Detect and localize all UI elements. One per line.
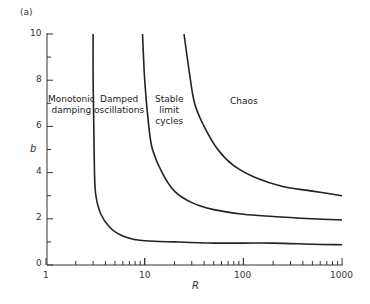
x-ticks [46, 258, 342, 265]
region-label-line: Damped [94, 94, 144, 105]
y-tick-label-4: 4 [36, 166, 42, 176]
panel-label: (a) [20, 7, 33, 17]
axes [46, 33, 343, 265]
y-axis-label: b [30, 143, 36, 154]
boundary-curve-3 [184, 34, 342, 196]
region-label-chaos: Chaos [230, 96, 258, 107]
y-tick-label-6: 6 [36, 120, 42, 130]
x-tick-label-1000: 1000 [330, 270, 353, 280]
x-tick-label-1: 1 [43, 270, 49, 280]
region-label-line: oscillations [94, 105, 144, 116]
y-tick-label-10: 10 [30, 28, 41, 38]
region-label-line: cycles [155, 116, 184, 127]
region-label-line: Monotonic [48, 94, 95, 105]
x-tick-label-100: 100 [234, 270, 251, 280]
boundary-curves [93, 34, 342, 245]
x-tick-label-10: 10 [139, 270, 150, 280]
region-label-monotonic-damping: Monotonic damping [48, 94, 95, 116]
boundary-curve-1 [93, 34, 342, 245]
x-axis-label: R [192, 280, 199, 291]
region-label-line: Stable [155, 94, 184, 105]
chart-canvas [0, 0, 370, 304]
region-label-damped-oscillations: Damped oscillations [94, 94, 144, 116]
y-ticks [47, 34, 53, 265]
y-tick-label-2: 2 [36, 212, 42, 222]
region-label-line: limit [155, 105, 184, 116]
y-tick-label-8: 8 [36, 74, 42, 84]
region-label-stable-limit-cycles: Stable limit cycles [155, 94, 184, 127]
y-tick-label-0: 0 [36, 258, 42, 268]
region-label-line: damping [48, 105, 95, 116]
boundary-curve-2 [143, 34, 343, 220]
